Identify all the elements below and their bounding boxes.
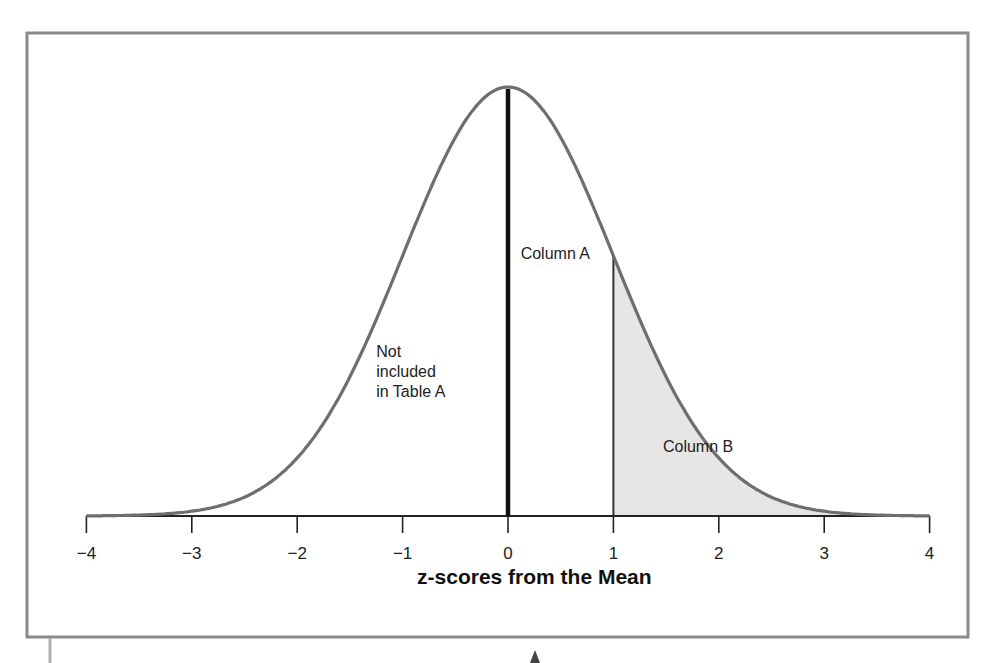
normal-distribution-chart: −4−3−2−101234 Column A Not included in T… [0, 0, 991, 663]
x-tick-label: −2 [288, 544, 307, 563]
x-tick-label: −4 [77, 544, 96, 563]
shaded-region-column-b [613, 256, 929, 516]
x-tick-label: −3 [182, 544, 201, 563]
x-tick-label: 3 [819, 544, 828, 563]
x-tick-label: 0 [503, 544, 512, 563]
label-column-b: Column B [663, 438, 733, 455]
label-not-included: Not included in Table A [376, 343, 445, 400]
x-tick-label: −1 [393, 544, 412, 563]
label-column-a: Column A [521, 245, 591, 262]
x-axis-ticks: −4−3−2−101234 [77, 516, 935, 563]
x-tick-label: 1 [609, 544, 618, 563]
x-axis-title: z-scores from the Mean [417, 565, 652, 588]
x-tick-label: 4 [925, 544, 934, 563]
frame-decoration-triangle [530, 650, 540, 663]
label-not-included-line3: in Table A [376, 383, 445, 400]
x-tick-label: 2 [714, 544, 723, 563]
label-not-included-line2: included [376, 363, 436, 380]
label-not-included-line1: Not [376, 343, 401, 360]
